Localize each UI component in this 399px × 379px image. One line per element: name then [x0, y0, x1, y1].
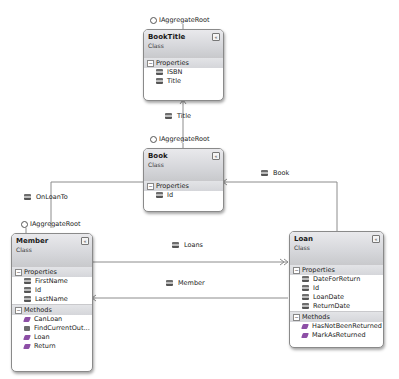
property-icon: [172, 242, 179, 248]
method-icon: [23, 317, 31, 322]
minus-icon: −: [293, 267, 300, 274]
assoc-label-onloanto[interactable]: OnLoanTo: [24, 193, 68, 201]
property-icon: [302, 303, 309, 309]
booktitle-interface: IAggregateRoot: [150, 16, 210, 24]
class-name: Loan: [294, 235, 379, 244]
method-icon: [23, 344, 31, 349]
section-methods[interactable]: −Methods: [290, 311, 383, 322]
member-method[interactable]: Loan: [12, 333, 92, 342]
member-property[interactable]: Id: [290, 284, 383, 293]
property-icon: [24, 194, 31, 200]
property-icon: [165, 113, 172, 119]
member-property[interactable]: LastName: [12, 295, 92, 304]
interface-lollipop-icon: [21, 221, 28, 228]
member-method[interactable]: CanLoan: [12, 315, 92, 324]
collapse-icon[interactable]: «: [212, 33, 220, 41]
class-book[interactable]: Book Class « −Properties Id: [143, 148, 224, 212]
interface-lollipop-icon: [150, 136, 157, 143]
section-properties[interactable]: −Properties: [144, 180, 223, 191]
collapse-icon[interactable]: «: [372, 235, 380, 243]
member-interface: IAggregateRoot: [21, 220, 81, 228]
class-name: BookTitle: [148, 33, 219, 42]
property-icon: [24, 296, 31, 302]
class-kind: Class: [294, 244, 379, 252]
method-icon: [301, 324, 309, 329]
member-property[interactable]: DateForReturn: [290, 275, 383, 284]
member-property[interactable]: FirstName: [12, 277, 92, 286]
property-icon: [302, 285, 309, 291]
member-method[interactable]: MarkAsReturned: [290, 331, 383, 340]
private-method-icon: [24, 326, 30, 331]
property-icon: [156, 192, 163, 198]
property-icon: [156, 78, 163, 84]
property-icon: [261, 170, 268, 176]
minus-icon: −: [293, 314, 300, 321]
minus-icon: −: [147, 183, 154, 190]
assoc-label-loans[interactable]: Loans: [172, 241, 203, 249]
minus-icon: −: [147, 60, 154, 67]
interface-lollipop-icon: [150, 17, 157, 24]
section-properties[interactable]: −Properties: [12, 266, 92, 277]
collapse-icon[interactable]: «: [212, 152, 220, 160]
section-properties[interactable]: −Properties: [144, 57, 223, 68]
member-method[interactable]: FindCurrentOut...: [12, 324, 92, 333]
class-name: Book: [148, 152, 219, 161]
class-member[interactable]: Member Class « −Properties FirstName Id …: [11, 233, 93, 372]
minus-icon: −: [15, 307, 22, 314]
book-interface: IAggregateRoot: [150, 135, 210, 143]
section-methods[interactable]: −Methods: [12, 304, 92, 315]
class-name: Member: [16, 237, 88, 246]
class-kind: Class: [148, 161, 219, 169]
member-property[interactable]: ReturnDate: [290, 302, 383, 311]
class-loan[interactable]: Loan Class « −Properties DateForReturn I…: [289, 231, 384, 348]
class-booktitle[interactable]: BookTitle Class « −Properties ISBN Title: [143, 29, 224, 101]
class-kind: Class: [16, 246, 88, 254]
minus-icon: −: [15, 269, 22, 276]
property-icon: [156, 69, 163, 75]
section-properties[interactable]: −Properties: [290, 264, 383, 275]
member-property[interactable]: LoanDate: [290, 293, 383, 302]
property-icon: [166, 280, 173, 286]
member-property[interactable]: ISBN: [144, 68, 223, 77]
class-kind: Class: [148, 42, 219, 50]
member-property[interactable]: Id: [12, 286, 92, 295]
member-property[interactable]: Title: [144, 77, 223, 86]
collapse-icon[interactable]: «: [81, 237, 89, 245]
property-icon: [24, 287, 31, 293]
property-icon: [302, 276, 309, 282]
assoc-label-book[interactable]: Book: [261, 169, 289, 177]
property-icon: [24, 278, 31, 284]
assoc-label-title[interactable]: Title: [165, 112, 191, 120]
member-method[interactable]: Return: [12, 342, 92, 351]
member-property[interactable]: Id: [144, 191, 223, 200]
method-icon: [301, 333, 309, 338]
method-icon: [23, 335, 31, 340]
assoc-label-member[interactable]: Member: [166, 279, 205, 287]
property-icon: [302, 294, 309, 300]
member-method[interactable]: HasNotBeenReturned: [290, 322, 383, 331]
